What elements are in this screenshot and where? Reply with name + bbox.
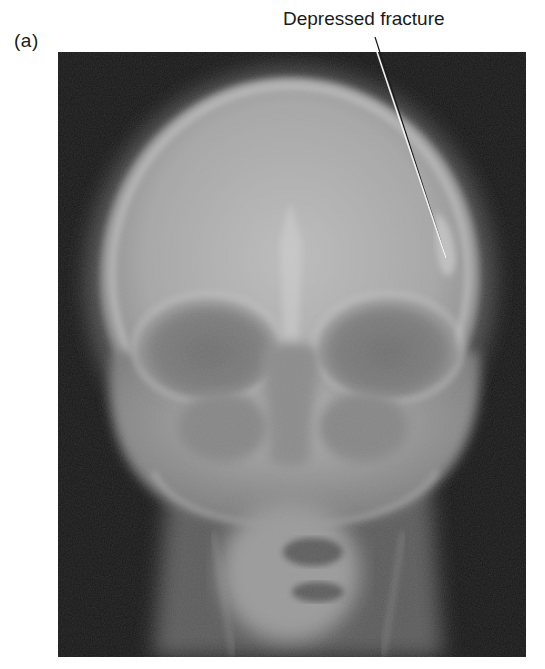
- annotation-label-depressed-fracture: Depressed fracture: [283, 8, 445, 30]
- skull-xray-image: [58, 52, 526, 657]
- skull-radiograph-illustration: [58, 52, 526, 657]
- panel-label: (a): [14, 30, 39, 52]
